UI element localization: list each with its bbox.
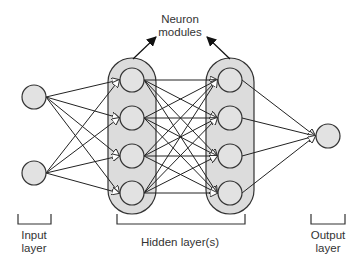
hidden1-node [120, 106, 144, 130]
input-layer-label: Input layer [9, 229, 59, 255]
hidden2-node [218, 144, 242, 168]
input-layer-line1: Input [9, 229, 59, 242]
input-bracket [18, 214, 51, 224]
hidden1-node [120, 68, 144, 92]
neuron-modules-label: Neuron modules [150, 13, 210, 39]
hidden-bracket [117, 214, 245, 224]
output-layer-line1: Output [303, 229, 353, 242]
module-arrow-left [133, 37, 156, 59]
hidden2-node [218, 181, 242, 205]
module-arrow-right [207, 37, 230, 59]
output-layer-line2: layer [303, 242, 353, 255]
output-bracket [311, 214, 345, 224]
hidden-layer-label: Hidden layer(s) [120, 236, 240, 249]
neuron-modules-line1: Neuron [150, 13, 210, 26]
output-node [316, 124, 340, 148]
connections [46, 80, 315, 193]
input-layer-line2: layer [9, 242, 59, 255]
hidden2-node [218, 68, 242, 92]
hidden1-node [120, 181, 144, 205]
hidden1-node [120, 144, 144, 168]
neural-network-diagram [0, 0, 362, 268]
hidden2-node [218, 106, 242, 130]
neuron-modules-line2: modules [150, 26, 210, 39]
input-node [22, 85, 46, 109]
input-node [22, 161, 46, 185]
output-layer-label: Output layer [303, 229, 353, 255]
